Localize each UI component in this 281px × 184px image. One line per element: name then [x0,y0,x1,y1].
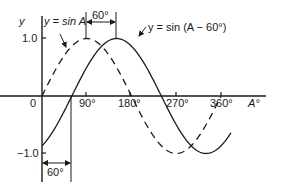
sine-phase-chart: 60° 60° y 1.0 −1.0 0 90° 180° 270° 360° … [0,0,281,184]
dim-top-label: 60° [92,9,109,21]
pointer-sin-a [60,34,66,47]
legend-sin-shift: y = sin (A − 60°) [148,21,226,33]
dim-bottom-label: 60° [47,166,64,178]
x-tick-label-360: 360° [210,97,233,109]
pointer-sin-shift [139,27,146,36]
x-tick-label-0: 0 [30,97,36,109]
y-axis-label: y [18,15,26,27]
y-tick-label-neg1: −1.0 [17,147,39,159]
x-axis-label: A° [247,97,260,109]
y-tick-label-1: 1.0 [22,32,37,44]
x-tick-label-180: 180° [118,97,141,109]
x-tick-label-90: 90° [79,97,96,109]
legend-sin-a: y = sin A [43,15,86,27]
legend-sin-a-text: y = sin A [43,15,86,27]
x-tick-label-270: 270° [166,97,189,109]
legend-sin-shift-text: y = sin (A − 60°) [148,21,226,33]
